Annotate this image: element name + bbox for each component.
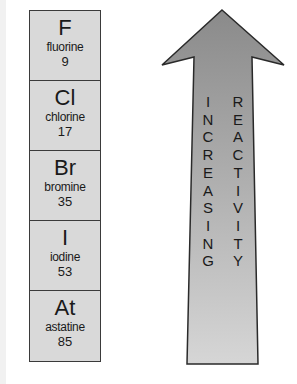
letter: T <box>228 164 248 182</box>
letter: R <box>198 146 218 164</box>
letter: C <box>228 146 248 164</box>
letter: A <box>198 182 218 200</box>
letter: I <box>198 217 218 235</box>
letter: Y <box>228 252 248 270</box>
letter: N <box>198 235 218 253</box>
letter: A <box>228 128 248 146</box>
letter: E <box>228 111 248 129</box>
reactivity-label: R E A C T I V I T Y <box>228 93 248 270</box>
up-arrow-icon <box>0 0 297 384</box>
letter: N <box>198 111 218 129</box>
letter: V <box>228 199 248 217</box>
letter: I <box>198 93 218 111</box>
letter: E <box>198 164 218 182</box>
letter: R <box>228 93 248 111</box>
letter: I <box>228 217 248 235</box>
letter: G <box>198 252 218 270</box>
letter: I <box>228 182 248 200</box>
increasing-label: I N C R E A S I N G <box>198 93 218 270</box>
letter: S <box>198 199 218 217</box>
letter: T <box>228 235 248 253</box>
letter: C <box>198 128 218 146</box>
